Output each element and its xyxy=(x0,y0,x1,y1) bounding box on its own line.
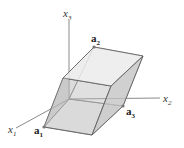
x3-label: x3 xyxy=(62,7,72,22)
a2-point xyxy=(92,45,95,48)
a3-point xyxy=(121,104,124,107)
parallelepiped-diagram: x3 x2 x1 a2 a1 a3 xyxy=(0,0,184,148)
a1-label: a1 xyxy=(34,124,44,139)
a2-label: a2 xyxy=(91,32,101,47)
x1-label: x1 xyxy=(7,123,16,138)
a3-label: a3 xyxy=(126,105,136,120)
a1-point xyxy=(42,125,45,128)
x2-label: x2 xyxy=(162,92,172,107)
